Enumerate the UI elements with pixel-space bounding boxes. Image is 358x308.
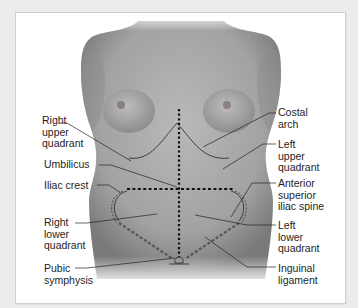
label-right-upper-quadrant: Right upper quadrant [42,115,83,150]
label-right-lower-quadrant: Right lower quadrant [44,217,85,252]
label-left-lower-quadrant: Left lower quadrant [278,220,319,255]
label-pubic-symphysis: Pubic symphysis [44,263,93,286]
label-left-upper-quadrant: Left upper quadrant [278,139,319,174]
label-costal-arch: Costal arch [278,107,308,130]
label-iliac-crest: Iliac crest [44,180,88,192]
torso-shape [81,21,281,279]
diagram-frame: Right upper quadrant Umbilicus Iliac cre… [15,12,346,304]
right-breast [103,89,155,133]
label-anterior-superior-iliac-spine: Anterior superior iliac spine [278,178,324,213]
label-umbilicus: Umbilicus [44,159,90,171]
left-breast [203,89,255,133]
label-inguinal-ligament: Inguinal ligament [278,263,318,286]
